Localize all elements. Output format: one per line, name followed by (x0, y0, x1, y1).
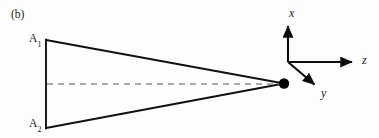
axis-label-z: z (362, 54, 367, 66)
vertex-label-a2-subscript: 2 (38, 125, 42, 134)
wedge-lower-edge (46, 84, 284, 129)
vertex-label-a1: A1 (29, 33, 41, 47)
figure-graphics (0, 0, 379, 138)
apex-dot (279, 78, 289, 88)
vertex-label-a1-letter: A (29, 32, 37, 44)
axis-label-y: y (321, 87, 326, 99)
panel-label: (b) (11, 9, 24, 21)
axis-line-y (288, 62, 315, 85)
vertex-label-a1-subscript: 1 (38, 40, 42, 49)
figure-panel-b: (b) A1 A2 x z y (0, 0, 379, 138)
axis-label-x: x (289, 7, 294, 19)
wedge-upper-edge (46, 40, 284, 84)
vertex-label-a2: A2 (29, 118, 41, 132)
vertex-label-a2-letter: A (29, 117, 37, 129)
